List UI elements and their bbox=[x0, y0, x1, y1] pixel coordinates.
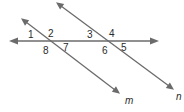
arrowhead-n-bottom-icon bbox=[166, 83, 174, 90]
angle-label-2: 2 bbox=[48, 28, 54, 39]
angle-label-4: 4 bbox=[109, 28, 115, 39]
arrowhead-right-icon bbox=[150, 38, 159, 45]
line-m bbox=[21, 18, 120, 94]
angle-label-7: 7 bbox=[63, 42, 69, 53]
angle-label-6: 6 bbox=[102, 45, 108, 56]
line-label-n: n bbox=[176, 91, 182, 102]
arrowhead-n-top-icon bbox=[56, 2, 64, 9]
arrowhead-m-bottom-icon bbox=[112, 86, 120, 94]
diagram-canvas: 1 2 3 4 5 6 7 8 m n bbox=[0, 0, 184, 112]
line-n bbox=[56, 2, 174, 90]
angle-label-3: 3 bbox=[87, 29, 93, 40]
angle-label-1: 1 bbox=[28, 29, 34, 40]
line-label-m: m bbox=[125, 95, 133, 106]
arrowhead-left-icon bbox=[9, 38, 18, 45]
angle-label-8: 8 bbox=[43, 45, 49, 56]
arrowhead-m-top-icon bbox=[21, 18, 29, 26]
angle-label-5: 5 bbox=[121, 42, 127, 53]
